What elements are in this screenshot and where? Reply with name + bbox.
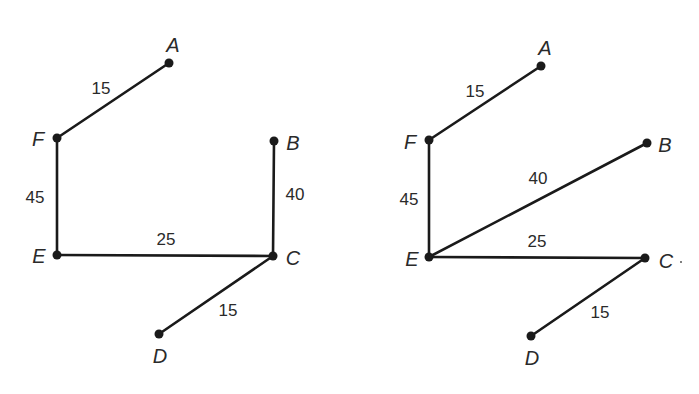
vertex-E	[425, 253, 434, 262]
vertex-label: C	[286, 247, 301, 269]
edge-weight-label: 15	[466, 82, 485, 101]
edge-E-C	[57, 255, 273, 256]
vertex-label: E	[405, 248, 419, 270]
vertex-F	[425, 136, 434, 145]
edge-weight-label: 15	[92, 79, 111, 98]
vertex-A	[537, 62, 546, 71]
edge-C-D	[159, 256, 273, 334]
vertex-D	[155, 330, 164, 339]
vertex-label: A	[165, 34, 179, 56]
stray-dot	[680, 261, 682, 263]
edge-weight-label: 25	[528, 232, 547, 251]
edge-E-C	[429, 257, 645, 258]
edge-weight-label: 40	[529, 169, 548, 188]
vertex-C	[269, 252, 278, 261]
vertex-D	[527, 332, 536, 341]
vertex-label: B	[286, 132, 299, 154]
edge-weight-label: 15	[591, 303, 610, 322]
vertex-B	[270, 137, 279, 146]
vertex-label: F	[32, 128, 46, 150]
vertex-E	[53, 251, 62, 260]
vertex-label: E	[32, 245, 46, 267]
edge-weight-label: 45	[26, 188, 45, 207]
vertex-F	[53, 134, 62, 143]
edge-B-C	[273, 141, 274, 256]
edge-F-A	[57, 63, 169, 138]
vertex-C	[641, 254, 650, 263]
edge-weight-label: 45	[400, 190, 419, 209]
edge-weight-label: 25	[157, 230, 176, 249]
edge-C-D	[531, 258, 645, 336]
edge-F-A	[429, 66, 541, 140]
vertex-B	[643, 139, 652, 148]
tree-right: 1545402515AFBECD	[400, 37, 674, 369]
tree-left: 1545402515AFBECD	[26, 34, 305, 367]
vertex-label: A	[537, 37, 551, 59]
vertex-label: B	[658, 134, 671, 156]
edge-weight-label: 40	[286, 185, 305, 204]
vertex-A	[165, 59, 174, 68]
vertex-label: F	[404, 131, 418, 153]
vertex-label: D	[153, 345, 167, 367]
graph-canvas: 1545402515AFBECD 1545402515AFBECD	[0, 0, 699, 394]
edge-weight-label: 15	[219, 301, 238, 320]
vertex-label: C	[659, 250, 674, 272]
vertex-label: D	[525, 347, 539, 369]
